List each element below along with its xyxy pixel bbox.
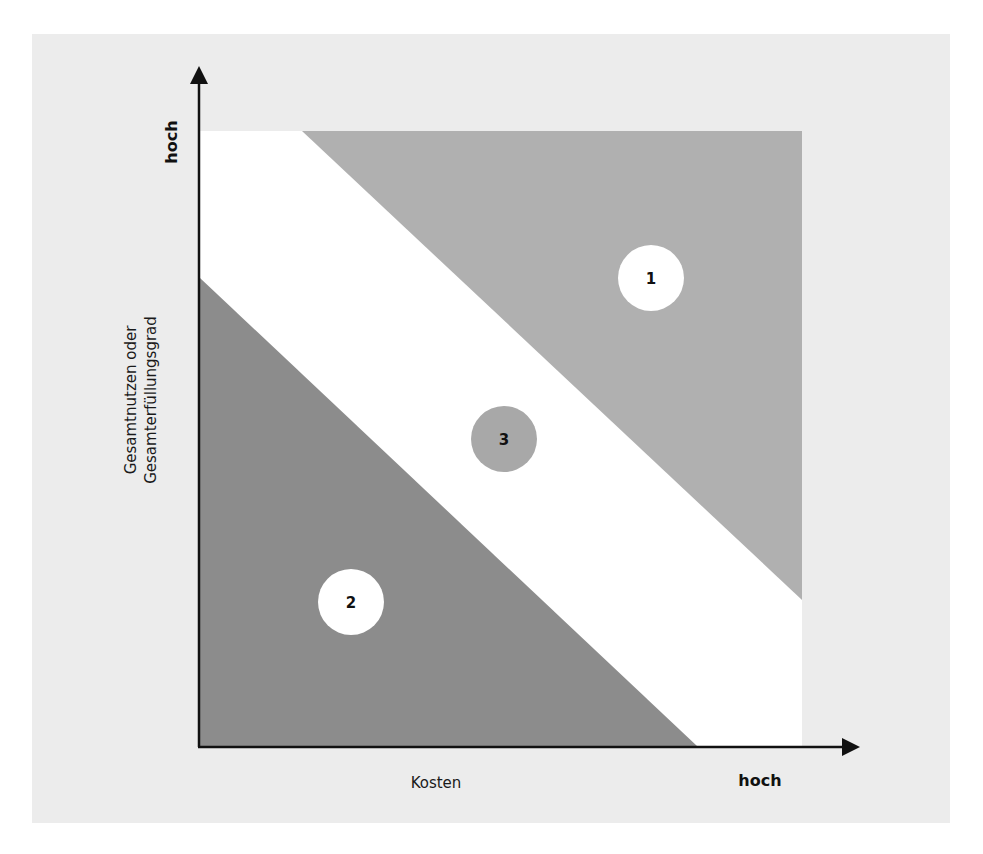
y-axis-label-line2: Gesamterfüllungsgrad bbox=[142, 316, 160, 484]
y-axis-label-line1: Gesamtnutzen oder bbox=[122, 325, 140, 475]
x-axis-label: Kosten bbox=[411, 774, 462, 792]
marker-2-label: 2 bbox=[346, 594, 356, 612]
portfolio-diagram: 1 3 2 hoch Gesamtnutzen oder Gesamterfül… bbox=[0, 0, 983, 854]
x-axis-arrow-icon bbox=[842, 738, 860, 756]
x-axis-high-label: hoch bbox=[738, 771, 781, 790]
y-axis-arrow-icon bbox=[190, 66, 208, 84]
marker-1: 1 bbox=[618, 245, 684, 311]
marker-3-label: 3 bbox=[499, 431, 509, 449]
marker-3: 3 bbox=[471, 406, 537, 472]
y-axis-high-label: hoch bbox=[162, 120, 181, 163]
marker-1-label: 1 bbox=[646, 270, 656, 288]
marker-2: 2 bbox=[318, 569, 384, 635]
